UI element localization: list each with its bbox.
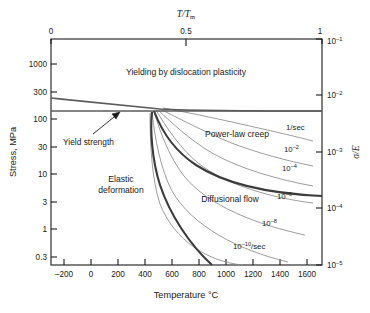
left-ticklabel-1000: 1000	[29, 60, 48, 69]
top-axis-sub-m: m	[190, 13, 196, 20]
top-ticklabel-1: 1	[318, 27, 323, 36]
left-ticklabel-100: 100	[33, 115, 47, 124]
bottom-ticklabel-800: 800	[192, 270, 206, 279]
region-label-elastic-line2: deformation	[98, 185, 144, 195]
bottom-ticklabel-600: 600	[165, 270, 179, 279]
rate-label-1-per-sec: 1/sec	[286, 123, 305, 132]
right-axis-E: E	[350, 145, 361, 152]
bottom-ticklabel--200: –200	[55, 270, 74, 279]
region-label-diffusional-flow: Diffusional flow	[201, 194, 259, 204]
top-ticklabel-0: 0	[49, 27, 54, 36]
deformation-mechanism-map: T/Tm 0 0.5 1 Stress, MPa 1000 300 100 30…	[0, 0, 370, 313]
bottom-ticklabel-1000: 1000	[217, 270, 236, 279]
region-label-elastic-line1: Elastic	[108, 174, 134, 184]
left-ticklabel-30: 30	[38, 143, 48, 152]
bottom-ticklabel-1200: 1200	[244, 270, 263, 279]
left-ticklabel-0.3: 0.3	[36, 253, 48, 262]
yield-strength-label: Yield strength	[63, 137, 114, 147]
bottom-axis-title: Temperature °C	[154, 290, 219, 300]
region-label-power-law-creep: Power-law creep	[205, 129, 269, 139]
top-ticklabel-0.5: 0.5	[180, 27, 192, 36]
bottom-ticklabel-400: 400	[138, 270, 152, 279]
left-axis-title: Stress, MPa	[8, 126, 18, 177]
right-axis-title: σ/E	[350, 145, 361, 158]
left-ticklabel-10: 10	[38, 170, 48, 179]
bottom-ticklabel-1400: 1400	[271, 270, 290, 279]
left-ticklabel-3: 3	[42, 198, 47, 207]
bottom-ticklabel-1600: 1600	[298, 270, 317, 279]
region-label-yielding: Yielding by dislocation plasticity	[126, 67, 247, 77]
left-ticklabel-300: 300	[33, 88, 47, 97]
bottom-ticklabel-200: 200	[111, 270, 125, 279]
bottom-ticklabel-0: 0	[89, 270, 94, 279]
left-ticklabel-1: 1	[42, 225, 47, 234]
